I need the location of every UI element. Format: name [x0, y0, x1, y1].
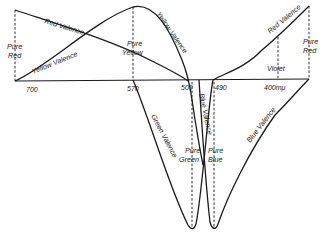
- violet-label: Violet: [267, 64, 286, 73]
- diagram-canvas: 700 570 500 490 400mμ Red Valence Yellow…: [0, 0, 326, 233]
- red-valence-label-left: Red Valence: [43, 16, 85, 37]
- red-valence-curve-right: [213, 6, 309, 80]
- pure-yellow-label-1: Pure: [127, 39, 142, 48]
- blue-valence-label-mid: Blue Valence: [197, 93, 215, 136]
- pure-blue-label-1: Pure: [208, 146, 223, 155]
- yellow-valence-label-left: Yellow Valence: [30, 49, 78, 76]
- tick-500: 500: [181, 84, 193, 91]
- pure-green-label-1: Pure: [185, 146, 200, 155]
- pure-green-label-2: Green: [179, 155, 199, 164]
- blue-valence-label-right: Blue Valence: [244, 106, 277, 145]
- tick-570: 570: [127, 85, 139, 92]
- pure-yellow-label-2: Yellow: [122, 48, 144, 57]
- tick-700: 700: [26, 86, 38, 93]
- pure-red-right-label-1: Pure: [303, 37, 318, 46]
- pure-blue-label-2: Blue: [208, 155, 222, 164]
- wavelength-axis: [15, 79, 309, 81]
- pure-red-left-label-2: Red: [8, 51, 22, 60]
- pure-red-left-label-1: Pure: [7, 42, 22, 51]
- pure-red-right-label-2: Red: [303, 46, 317, 55]
- valence-curves-diagram: 700 570 500 490 400mμ Red Valence Yellow…: [0, 0, 326, 233]
- yellow-valence-label-right: Yellow Valence: [154, 10, 189, 55]
- tick-490: 490: [215, 84, 227, 91]
- tick-400: 400mμ: [264, 84, 286, 92]
